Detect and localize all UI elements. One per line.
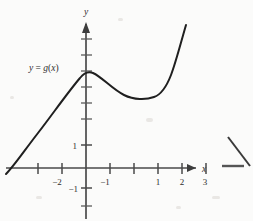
- x-axis: [6, 164, 196, 172]
- graph-svg: −2 −1 1 2 3 1 −1 x y y = g(x): [0, 0, 253, 221]
- y-tick-label--1: −1: [68, 184, 78, 194]
- x-tick-label--1: −1: [100, 177, 110, 187]
- x-tick-label-3: 3: [203, 177, 208, 187]
- x-tick-label--2: −2: [52, 177, 62, 187]
- paper-texture: [10, 18, 220, 209]
- function-curve: [6, 25, 186, 174]
- curve-label: y = g(x): [28, 63, 59, 74]
- y-tick-label-1: 1: [73, 141, 78, 151]
- x-tick-label-2: 2: [180, 177, 185, 187]
- figure-container: −2 −1 1 2 3 1 −1 x y y = g(x) y = g(x) x…: [0, 0, 253, 221]
- adjacent-figure-fragment: [222, 137, 250, 166]
- y-axis: [82, 22, 90, 219]
- x-tick-label-1: 1: [156, 177, 161, 187]
- y-axis-name: y: [83, 7, 89, 17]
